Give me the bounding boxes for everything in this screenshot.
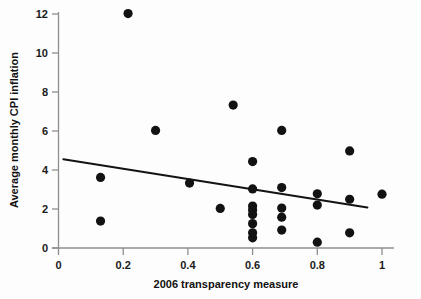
data-point (185, 178, 194, 187)
data-point (248, 210, 257, 219)
data-point (216, 204, 225, 213)
data-point (377, 190, 386, 199)
x-tick-label: 0.4 (180, 259, 196, 271)
x-tick-label: 0.8 (310, 259, 325, 271)
x-tick-label: 1 (379, 259, 385, 271)
data-point (313, 238, 322, 247)
y-tick-label: 6 (42, 125, 48, 137)
x-axis-tick-labels: 00.20.40.60.81 (55, 259, 385, 271)
data-point (277, 203, 286, 212)
y-tick-label: 0 (42, 242, 48, 254)
data-points (96, 9, 387, 247)
x-tick-label: 0.2 (116, 259, 131, 271)
axis-lines (52, 12, 394, 248)
data-point (277, 126, 286, 135)
y-tick-label: 8 (42, 86, 48, 98)
data-point (96, 216, 105, 225)
x-axis-title: 2006 transparency measure (154, 278, 299, 290)
data-point (123, 9, 132, 18)
y-tick-label: 10 (36, 47, 48, 59)
data-point (96, 173, 105, 182)
data-point (313, 189, 322, 198)
y-axis-title: Average monthly CPI inflation (8, 52, 20, 208)
data-point (229, 100, 238, 109)
data-point (248, 184, 257, 193)
data-point (345, 146, 354, 155)
scatter-plot-figure: 024681012 00.20.40.60.81 2006 transparen… (0, 0, 421, 299)
data-point (248, 233, 257, 242)
x-tick-label: 0.6 (245, 259, 260, 271)
y-tick-label: 2 (42, 203, 48, 215)
chart-canvas: 024681012 00.20.40.60.81 2006 transparen… (0, 0, 421, 299)
regression-line (63, 159, 367, 207)
data-point (277, 213, 286, 222)
data-point (277, 183, 286, 192)
data-point (248, 219, 257, 228)
y-tick-label: 12 (36, 8, 48, 20)
x-tick-label: 0 (55, 259, 61, 271)
data-point (313, 201, 322, 210)
data-point (151, 126, 160, 135)
data-point (277, 225, 286, 234)
data-point (248, 157, 257, 166)
trend-line (63, 159, 367, 207)
y-tick-label: 4 (42, 164, 49, 176)
data-point (345, 195, 354, 204)
y-axis-ticks (52, 14, 59, 248)
data-point (345, 228, 354, 237)
y-axis-tick-labels: 024681012 (36, 8, 49, 254)
x-axis-ticks (59, 248, 383, 255)
